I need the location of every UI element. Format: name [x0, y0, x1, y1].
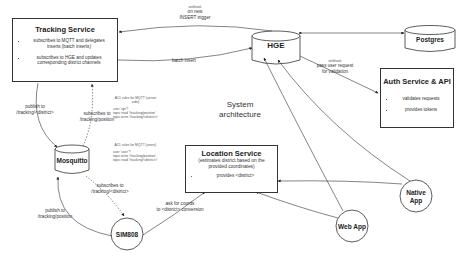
location-service-bullets: provides <district> — [186, 173, 277, 179]
edge-label-ask-coords: ask for coords to <district> conversion — [150, 201, 210, 212]
location-service-subtitle: (estimates district based on the provide… — [186, 158, 277, 170]
tracking-bullet: subscribes to MQTT and delegates inserts… — [27, 38, 111, 50]
auth-bullet: provides tokens — [395, 107, 447, 113]
edge-label-sim-publish: publish to /tracking/position — [30, 208, 80, 219]
postgres-node: Postgres — [405, 36, 455, 44]
edge-label-ts-publish: publish to /tracking/<district> — [10, 104, 60, 115]
location-bullet: provides <district> — [200, 173, 271, 179]
location-service-title: Location Service — [186, 149, 277, 158]
edge-label-pass-request: webhook pass user request for validation — [310, 59, 360, 74]
auth-bullet: validates requests — [395, 96, 447, 102]
caption-line2: architecture — [210, 110, 270, 120]
acl-users-note: ACL rules for MQTT (users) user 'user'? … — [113, 143, 158, 162]
location-service-box: Location Service (estimates district bas… — [185, 145, 278, 193]
edge-label-batch-insert: batch insert — [172, 58, 196, 64]
auth-service-box: Auth Service & API validates requests pr… — [380, 68, 454, 128]
caption-line1: System — [210, 100, 270, 110]
sim808-node: SIM808 — [111, 231, 143, 239]
auth-service-bullets: validates requests provides tokens — [381, 96, 453, 113]
tracking-service-title: Tracking Service — [13, 25, 117, 34]
tracking-service-bullets: subscribes to MQTT and delegates inserts… — [13, 38, 117, 66]
hge-node: HGE — [258, 42, 294, 50]
auth-service-title: Auth Service & API — [381, 77, 453, 86]
mosquitto-node: Mosquitto — [52, 157, 92, 165]
edge-label-sim-subscribe: subscribes to /tracking/<district> — [85, 183, 135, 194]
acl-server-note: ACL rules for MQTT (server side) user 'a… — [113, 96, 158, 119]
native-app-node: Native App — [402, 189, 430, 204]
diagram-caption: System architecture — [210, 100, 270, 120]
edge-label-insert-trigger: webhook on new INSERT trigger — [170, 5, 220, 20]
web-app-node: Web App — [336, 223, 368, 231]
tracking-bullet: subscribes to HGE and updates correspond… — [27, 55, 111, 67]
tracking-service-box: Tracking Service subscribes to MQTT and … — [12, 18, 118, 82]
